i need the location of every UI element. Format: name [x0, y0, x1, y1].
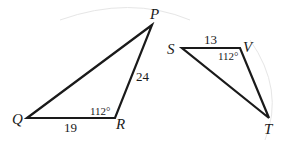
side-label-rp: 24 [136, 69, 150, 84]
vertex-label-p: P [149, 6, 159, 22]
angle-label-r: 112° [90, 105, 111, 117]
vertex-label-r: R [115, 116, 125, 132]
angle-label-v: 112° [218, 50, 239, 62]
vertex-label-t: T [264, 121, 274, 137]
vertex-label-s: S [167, 41, 175, 57]
vertex-label-v: V [243, 39, 254, 55]
geometry-figure: P Q R 19 24 112° S V T 13 112° [0, 0, 291, 146]
background-smudge [60, 8, 190, 21]
vertex-label-q: Q [12, 111, 23, 127]
side-label-qr: 19 [64, 120, 77, 135]
triangle-svt: S V T 13 112° [167, 32, 274, 137]
triangle-pqr: P Q R 19 24 112° [12, 6, 159, 135]
side-label-sv: 13 [204, 32, 217, 47]
